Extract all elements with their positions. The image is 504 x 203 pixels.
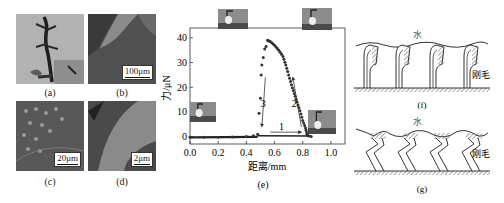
bristle-label-g: 刚毛 — [472, 148, 490, 159]
force-distance-chart: 010203040 0.00.20.40.60.81.0 123 力/μN 距离… — [160, 0, 350, 203]
y-tick-label: 20 — [177, 82, 187, 93]
panel-c-scalebar: 20μm — [54, 152, 81, 168]
panel-b-sem-photo: 100μm — [88, 14, 156, 84]
panel-c-sem-photo: 20μm — [16, 101, 84, 171]
y-axis-label: 力/μN — [160, 75, 172, 100]
x-tick-label: 0.2 — [212, 147, 225, 158]
x-axis-label: 距离/mm — [248, 160, 287, 172]
panel-b-scale-label: 100μm — [125, 66, 150, 76]
panel-c-scale-label: 20μm — [57, 153, 78, 163]
panel-c-caption: (c) — [30, 176, 70, 187]
y-tick-label: 0 — [182, 131, 187, 142]
y-tick-label: 10 — [177, 106, 187, 117]
panel-b-scalebar: 100μm — [122, 65, 153, 81]
panel-a-gecko-photo — [16, 14, 84, 84]
panel-d-scale-label: 2μm — [134, 153, 150, 163]
x-tick-label: 0.6 — [268, 147, 281, 158]
panel-a-caption: (a) — [30, 87, 70, 98]
water-label-f: 水 — [413, 29, 422, 40]
water-label-g: 水 — [413, 116, 422, 127]
annotation-label: 3 — [261, 98, 266, 109]
gecko-silhouette-icon — [16, 14, 84, 84]
panel-g-caption: (g) — [417, 184, 428, 194]
setae-upright — [364, 45, 478, 88]
panel-d-caption: (d) — [102, 176, 142, 187]
panel-e-caption: (e) — [257, 179, 268, 191]
setae-bent — [366, 133, 482, 171]
substrate-f — [354, 88, 490, 92]
x-tick-label: 0.8 — [296, 147, 309, 158]
panel-b-caption: (b) — [102, 87, 142, 98]
annotation-label: 2 — [292, 98, 297, 109]
x-tick-label: 0.0 — [184, 147, 197, 158]
panel-d-scalebar: 2μm — [131, 152, 153, 168]
substrate-g — [354, 171, 490, 175]
bristle-label-f: 刚毛 — [472, 69, 490, 80]
y-tick-label: 40 — [177, 32, 187, 43]
panel-f-diagram: 水 刚毛 (f) — [350, 20, 504, 115]
x-tick-label: 0.4 — [240, 147, 253, 158]
x-tick-label: 1.0 — [325, 147, 338, 158]
panel-d-sem-photo: 2μm — [88, 101, 156, 171]
y-tick-label: 30 — [177, 57, 187, 68]
annotation-label: 1 — [279, 121, 284, 132]
panel-g-diagram: 水 刚毛 (g) — [350, 108, 504, 203]
